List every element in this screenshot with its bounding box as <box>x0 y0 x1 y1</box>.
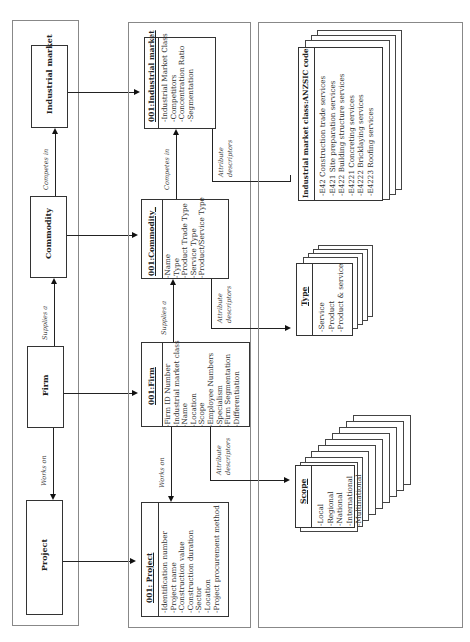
relation-line <box>176 135 177 199</box>
attribute-descriptors-label: Attribute descriptors <box>216 286 234 323</box>
list-items: -E42 Construction trade services -E421 S… <box>318 74 376 196</box>
label-line: descriptors <box>226 140 235 177</box>
list-item: -Service <box>317 264 327 332</box>
class-commodity: 001:Commodity_ -Name -Type -Product Trad… <box>141 199 229 279</box>
relation-label: Works on <box>40 455 48 486</box>
class-attributes: -Identification number -Project name -Co… <box>161 505 221 613</box>
relation-label: Works on <box>158 457 166 488</box>
entity-firm: Firm <box>27 346 64 428</box>
list-title: Type <box>300 287 309 306</box>
relation-line <box>173 285 174 342</box>
entity-industrial-market: Industrial market <box>31 45 68 128</box>
arrow-down-icon <box>168 496 174 502</box>
attribute: -Project procurement method <box>213 505 222 613</box>
class-project: 001: Project -Identification number -Pro… <box>141 502 229 617</box>
arrow-up-icon <box>51 278 57 284</box>
class-firm: 001:Firm -Firm ID Number -Industrial mar… <box>141 342 250 427</box>
connector-line <box>67 235 132 236</box>
connector-line <box>64 393 132 394</box>
class-title: 001:Industrial market <box>147 30 156 122</box>
arrow-down-icon <box>50 494 56 500</box>
descriptor-line <box>210 427 211 480</box>
label-line: Attribute <box>216 286 225 323</box>
list-item: -E4223 Roofing services <box>366 74 376 196</box>
list-items: -Service -Product -Product & service <box>317 264 346 332</box>
connector-line <box>68 92 134 93</box>
relation-line <box>53 428 54 494</box>
relation-label: Competes in <box>42 149 50 190</box>
arrow-up-icon <box>52 128 58 134</box>
list-item: -E421 Site preparation services <box>328 74 338 196</box>
relation-label: Supplies a <box>160 301 168 335</box>
list-item: -National <box>335 474 345 526</box>
relation-line <box>54 284 55 346</box>
list-item: -Regional <box>326 474 336 526</box>
list-anzsic: Industrial market class:ANZSIC code -E42… <box>298 47 383 201</box>
entity-label: Industrial market <box>44 34 54 114</box>
attribute-descriptors-label: Attribute descriptors <box>215 438 233 475</box>
label-line: descriptors <box>224 438 233 475</box>
entity-label: Commodity <box>43 208 53 259</box>
list-item: -E422 Building structure services <box>337 74 347 196</box>
attribute: -Product/Service Type <box>198 197 207 278</box>
relation-label: Competes in <box>163 149 171 190</box>
arrow-up-icon <box>170 279 176 285</box>
class-industrial-market: 001:Industrial market -Industrial Market… <box>144 37 216 129</box>
list-type: Type -Service -Product -Product & servic… <box>296 263 353 336</box>
class-attributes: -Firm ID Number -Industrial market class… <box>164 340 241 427</box>
list-item: -Product & service <box>336 264 346 332</box>
list-item: -E4222 Bricklaying services <box>356 74 366 196</box>
list-title: Scope <box>299 479 308 504</box>
list-scope: Scope -Local -Regional -National -Intern… <box>295 465 355 528</box>
entity-label: Firm <box>40 375 50 396</box>
list-item: -Product <box>327 264 337 332</box>
class-title: 001:Firm <box>147 367 156 405</box>
list-item: -E4221 Concreting services <box>347 74 357 196</box>
arrow-up-icon <box>173 129 179 135</box>
class-title: 001: Project <box>145 553 154 603</box>
connector-line <box>63 561 130 562</box>
class-attributes: -Industrial Market Class -Competitors -C… <box>161 33 195 122</box>
relation-line <box>55 134 56 196</box>
class-title: 001:Commodity_ <box>147 207 156 276</box>
attribute-descriptors-label: Attribute descriptors <box>217 140 235 177</box>
entity-commodity: Commodity <box>30 196 67 278</box>
label-line: Attribute <box>217 140 226 177</box>
entity-project: Project <box>26 500 63 615</box>
class-attributes: -Name -Type -Product Trade Type -Service… <box>164 197 207 278</box>
list-item: -International <box>345 474 355 526</box>
list-title: Industrial market class:ANZSIC code <box>301 49 310 199</box>
list-item: -Multinational <box>354 474 364 526</box>
list-item: -E42 Construction trade services <box>318 74 328 196</box>
list-item: -Local <box>316 474 326 526</box>
label-line: descriptors <box>225 286 234 323</box>
attribute: -Segmentation <box>187 33 196 122</box>
list-items: -Local -Regional -National -Internationa… <box>316 474 364 526</box>
attribute: -Differentiation <box>233 340 242 427</box>
relation-line <box>171 427 172 496</box>
descriptor-line <box>212 129 213 181</box>
label-line: Attribute <box>215 438 224 475</box>
relation-label: Supplies a <box>41 306 49 340</box>
descriptor-line <box>211 279 212 329</box>
entity-label: Project <box>39 539 49 571</box>
